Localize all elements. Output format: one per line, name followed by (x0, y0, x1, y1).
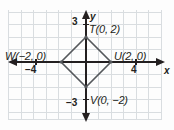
y-axis-up-arrow (82, 10, 90, 19)
vertex-label-U: U(2, 0) (114, 51, 146, 62)
vertex-label-V: V(0, −2) (90, 95, 128, 106)
vertex-V-dot (84, 85, 87, 88)
y-tick-label-3: 3 (72, 17, 78, 27)
vertex-U-dot (109, 60, 112, 63)
y-axis-label: y (90, 12, 96, 22)
vertex-W-dot (59, 60, 62, 63)
y-axis-down-arrow (82, 113, 90, 122)
vertex-label-W: W(−2, 0) (5, 51, 46, 62)
vertex-label-T: T(0, 2) (89, 24, 120, 35)
x-axis-label: x (164, 66, 170, 76)
vertex-T-dot (84, 35, 87, 38)
x-tick-label-neg4: −4 (25, 65, 36, 75)
coordinate-plane-figure: T(0, 2) U(2, 0) V(0, −2) W(−2, 0) −4 4 3… (0, 0, 174, 130)
y-tick-label-neg3: −3 (66, 98, 77, 108)
x-tick-label-4: 4 (131, 65, 137, 75)
